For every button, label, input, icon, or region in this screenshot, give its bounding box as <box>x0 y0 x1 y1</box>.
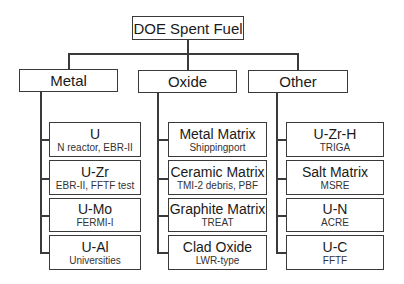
root-label: DOE Spent Fuel <box>133 20 242 37</box>
leaf-title: U <box>90 126 100 142</box>
leaf-subtitle: TREAT <box>201 217 233 229</box>
leaf-title: Graphite Matrix <box>170 201 266 217</box>
connector <box>40 139 49 141</box>
connector <box>40 252 49 254</box>
category-label: Other <box>279 73 317 90</box>
connector <box>187 40 189 54</box>
leaf-subtitle: FERMI-I <box>76 217 113 229</box>
leaf-subtitle: ACRE <box>321 217 349 229</box>
leaf-u: U N reactor, EBR-II <box>49 122 141 157</box>
connector <box>276 139 286 141</box>
connector <box>187 53 189 70</box>
leaf-title: U-N <box>323 201 348 217</box>
leaf-title: Clad Oxide <box>183 239 252 255</box>
leaf-subtitle: Universities <box>69 255 121 267</box>
connector <box>68 53 70 69</box>
leaf-u-al: U-Al Universities <box>49 235 141 270</box>
leaf-title: U-Mo <box>78 201 112 217</box>
connector <box>40 178 49 180</box>
leaf-metal-matrix: Metal Matrix Shippingport <box>168 122 267 157</box>
connector <box>297 53 299 70</box>
connector <box>40 92 42 252</box>
leaf-title: U-Zr <box>81 164 109 180</box>
connector <box>276 93 278 253</box>
leaf-title: Metal Matrix <box>179 126 255 142</box>
leaf-clad-oxide: Clad Oxide LWR-type <box>168 235 267 270</box>
connector <box>40 215 49 217</box>
leaf-subtitle: FFTF <box>323 255 347 267</box>
category-label: Metal <box>50 72 87 89</box>
connector <box>157 178 168 180</box>
leaf-subtitle: TMI-2 debris, PBF <box>177 180 258 192</box>
leaf-title: Ceramic Matrix <box>170 164 264 180</box>
connector <box>157 139 168 141</box>
leaf-title: U-Zr-H <box>314 126 357 142</box>
category-metal: Metal <box>19 69 118 92</box>
category-label: Oxide <box>168 73 207 90</box>
connector <box>157 215 168 217</box>
connector <box>276 178 286 180</box>
leaf-u-zr: U-Zr EBR-II, FFTF test <box>49 160 141 195</box>
category-other: Other <box>248 70 348 93</box>
leaf-u-c: U-C FFTF <box>286 235 384 270</box>
leaf-subtitle: LWR-type <box>196 255 240 267</box>
leaf-graphite-matrix: Graphite Matrix TREAT <box>168 198 267 232</box>
connector <box>157 252 168 254</box>
leaf-subtitle: MSRE <box>321 180 350 192</box>
leaf-u-zr-h: U-Zr-H TRIGA <box>286 122 384 157</box>
leaf-u-mo: U-Mo FERMI-I <box>49 198 141 232</box>
root-node: DOE Spent Fuel <box>132 16 244 40</box>
category-oxide: Oxide <box>138 70 237 93</box>
leaf-title: U-C <box>323 239 348 255</box>
leaf-title: Salt Matrix <box>302 164 368 180</box>
connector <box>68 53 298 55</box>
leaf-title: U-Al <box>81 239 108 255</box>
connector <box>276 215 286 217</box>
connector <box>276 252 286 254</box>
leaf-subtitle: Shippingport <box>189 142 245 154</box>
leaf-subtitle: N reactor, EBR-II <box>57 142 133 154</box>
connector <box>157 93 159 253</box>
leaf-subtitle: EBR-II, FFTF test <box>56 180 134 192</box>
leaf-ceramic-matrix: Ceramic Matrix TMI-2 debris, PBF <box>168 160 267 195</box>
leaf-u-n: U-N ACRE <box>286 198 384 232</box>
leaf-salt-matrix: Salt Matrix MSRE <box>286 160 384 195</box>
leaf-subtitle: TRIGA <box>320 142 351 154</box>
